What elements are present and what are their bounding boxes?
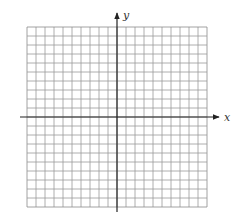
y-axis-label: y xyxy=(122,9,130,22)
x-axis-label: x xyxy=(224,111,231,124)
coordinate-plane: x y xyxy=(0,0,248,222)
